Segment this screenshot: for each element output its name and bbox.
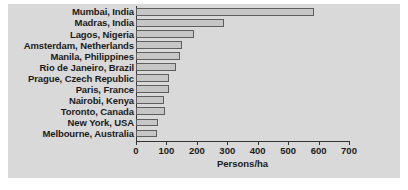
bar — [136, 107, 165, 115]
value-axis-line — [136, 141, 349, 142]
plot-area: Persons/ha Mumbai, IndiaMadras, IndiaLag… — [8, 4, 400, 178]
bar — [136, 41, 182, 49]
bar-row: Rio de Janeiro, Brazil — [8, 62, 400, 73]
x-axis-tick-label: 100 — [158, 146, 174, 156]
x-axis-tick-label: 700 — [341, 146, 357, 156]
x-axis-tick-label: 0 — [133, 146, 138, 156]
category-label: Nairobi, Kenya — [69, 96, 134, 106]
bar — [136, 74, 169, 82]
category-label: Melbourne, Australia — [42, 129, 134, 139]
category-label: New York, USA — [68, 118, 134, 128]
bar — [136, 119, 158, 127]
bar — [136, 30, 194, 38]
bar — [136, 85, 169, 93]
x-axis-tick-label: 600 — [311, 146, 327, 156]
bar-row: Amsterdam, Netherlands — [8, 40, 400, 51]
bar — [136, 52, 180, 60]
bar — [136, 96, 164, 104]
bar-row: Toronto, Canada — [8, 106, 400, 117]
bar-row: Madras, India — [8, 18, 400, 29]
bar-row: New York, USA — [8, 118, 400, 129]
x-axis-tick-label: 500 — [280, 146, 296, 156]
bar-row: Mumbai, India — [8, 7, 400, 18]
category-label: Amsterdam, Netherlands — [24, 41, 134, 51]
x-axis-tick-label: 200 — [189, 146, 205, 156]
category-label: Madras, India — [75, 19, 134, 29]
category-label: Manila, Philippines — [50, 52, 134, 62]
bar-row: Manila, Philippines — [8, 51, 400, 62]
bar — [136, 19, 224, 27]
bar — [136, 8, 314, 16]
category-label: Toronto, Canada — [61, 107, 134, 117]
bar-row: Lagos, Nigeria — [8, 29, 400, 40]
bar — [136, 130, 157, 138]
chart-panel: Persons/ha Mumbai, IndiaMadras, IndiaLag… — [8, 4, 400, 178]
category-label: Mumbai, India — [72, 8, 134, 18]
bar — [136, 63, 176, 71]
x-axis-label: Persons/ha — [136, 159, 349, 169]
category-label: Prague, Czech Republic — [28, 74, 134, 84]
x-axis-tick-label: 300 — [219, 146, 235, 156]
bar-row: Nairobi, Kenya — [8, 95, 400, 106]
category-label: Lagos, Nigeria — [70, 30, 134, 40]
bar-row: Paris, France — [8, 84, 400, 95]
bar-row: Prague, Czech Republic — [8, 73, 400, 84]
category-label: Paris, France — [76, 85, 134, 95]
bar-row: Melbourne, Australia — [8, 129, 400, 140]
x-axis-tick-label: 400 — [250, 146, 266, 156]
chart-figure: Persons/ha Mumbai, IndiaMadras, IndiaLag… — [0, 0, 408, 190]
category-label: Rio de Janeiro, Brazil — [40, 63, 134, 73]
